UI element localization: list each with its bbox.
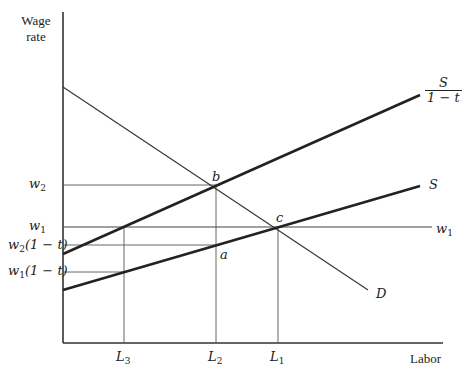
- demand-curve: [63, 87, 368, 290]
- y-tick-var: w: [8, 237, 19, 252]
- y-axis-title: Wage rate: [16, 14, 56, 43]
- x-tick-l1: L1: [270, 350, 284, 366]
- point-c-label: c: [276, 211, 283, 224]
- y-tick-w2-1-t: w2(1 − t): [8, 238, 68, 254]
- supply-label: S: [429, 178, 438, 191]
- x-tick-var: L: [116, 349, 125, 364]
- x-tick-sub: 1: [279, 356, 285, 366]
- supply-curve: [63, 186, 420, 290]
- x-tick-var: L: [208, 349, 217, 364]
- x-axis-title: Labor: [410, 352, 441, 365]
- y-tick-sub: 2: [40, 183, 46, 193]
- y-axis-title-line1: Wage: [16, 14, 56, 27]
- supply-taxed-label: S 1 − t: [425, 76, 462, 106]
- y-tick-w1: w1: [29, 219, 46, 235]
- demand-label: D: [376, 287, 386, 300]
- diagram-canvas: [0, 0, 462, 374]
- y-axis-title-line2: rate: [16, 30, 56, 43]
- x-tick-l2: L2: [208, 350, 222, 366]
- y-tick-var: w: [8, 263, 19, 278]
- y-tick-w2: w2: [29, 177, 46, 193]
- x-tick-l3: L3: [116, 350, 130, 366]
- y-tick-var: w: [29, 176, 40, 191]
- point-b-label: b: [212, 170, 220, 183]
- y-tick-var: w: [29, 218, 40, 233]
- y-tick-suffix: (1 − t): [25, 237, 68, 252]
- x-tick-var: L: [270, 349, 279, 364]
- wage-line-label: w1: [436, 222, 453, 238]
- y-tick-suffix: (1 − t): [25, 263, 68, 278]
- supply-taxed-denominator: 1 − t: [425, 90, 462, 105]
- x-tick-sub: 3: [125, 356, 131, 366]
- y-tick-w1-1-t: w1(1 − t): [8, 264, 68, 280]
- wage-line-var: w: [436, 221, 447, 236]
- supply-taxed-numerator: S: [425, 76, 462, 90]
- wage-line-sub: 1: [447, 228, 453, 238]
- supply-taxed-curve: [63, 95, 420, 254]
- point-a-label: a: [220, 248, 228, 261]
- y-tick-sub: 1: [40, 225, 46, 235]
- x-tick-sub: 2: [217, 356, 223, 366]
